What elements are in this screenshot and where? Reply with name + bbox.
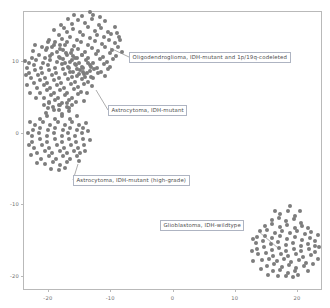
annotations-layer: Oligodendroglioma, IDH-mutant and 1p/19q… (0, 0, 330, 308)
annotation-leader-line (96, 90, 108, 110)
annotation-leader-line (110, 48, 129, 57)
scatter-plot-figure: -20-1001020100-10-20 Oligodendroglioma, … (0, 0, 330, 308)
leader-lines (0, 0, 330, 308)
annotation-leader-line (258, 231, 278, 248)
astrocytoma-high-grade-label: Astrocytoma, IDH-mutant (high-grade) (73, 175, 190, 186)
astrocytoma-label: Astrocytoma, IDH-mutant (108, 105, 187, 116)
oligodendroglioma-label: Oligodendroglioma, IDH-mutant and 1p/19q… (129, 52, 291, 63)
glioblastoma-label: Glioblastoma, IDH-wildtype (160, 220, 244, 231)
